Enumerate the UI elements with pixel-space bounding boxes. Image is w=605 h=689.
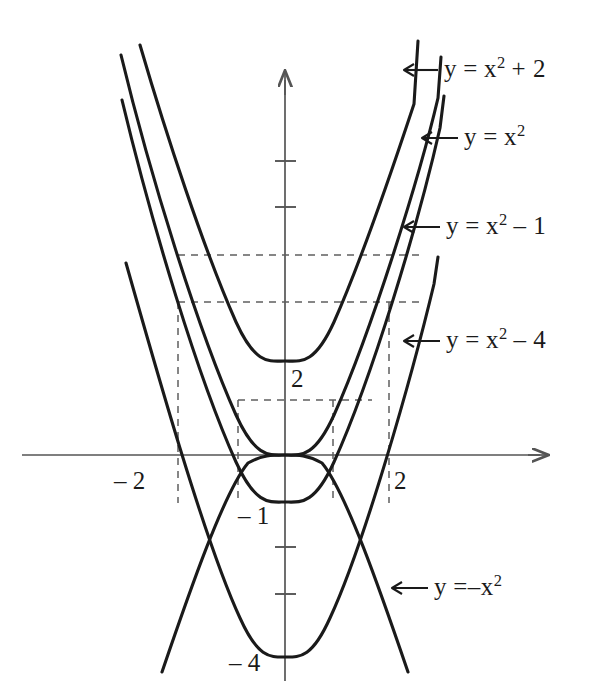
leader-arrow-x2-minus-1 bbox=[404, 221, 440, 233]
tick-label-x-pos-2: 2 bbox=[394, 468, 407, 493]
label-y-eq-x2-eq: = bbox=[483, 123, 498, 150]
label-y-eq-neg-x2-exp: 2 bbox=[494, 571, 502, 590]
label-y-eq-x2-base: x bbox=[504, 123, 517, 150]
label-y-eq-x2: y = x2 bbox=[464, 124, 525, 149]
label-y-eq-x2-plus-2-lead: y bbox=[444, 55, 457, 82]
label-y-eq-x2-minus-4: y = x2 – 4 bbox=[446, 327, 546, 352]
label-y-eq-x2-plus-2: y = x2 + 2 bbox=[444, 56, 546, 81]
label-y-eq-x2-plus-2-base: x bbox=[484, 55, 497, 82]
label-y-eq-x2-minus-4-base: x bbox=[486, 326, 499, 353]
tick-label-y-neg-4: – 4 bbox=[229, 650, 260, 675]
label-y-eq-x2-minus-4-tail: – 4 bbox=[514, 326, 547, 353]
curves-group bbox=[121, 41, 444, 672]
label-y-eq-x2-minus-1-eq: = bbox=[465, 212, 480, 239]
label-y-eq-x2-exp: 2 bbox=[517, 121, 525, 140]
label-y-eq-x2-plus-2-eq: = bbox=[463, 55, 478, 82]
label-y-eq-x2-minus-1-lead: y bbox=[446, 212, 459, 239]
label-y-eq-x2-lead: y bbox=[464, 123, 477, 150]
curve-y-eq-x2-minus-4 bbox=[126, 257, 438, 657]
label-y-eq-neg-x2-eq: =– bbox=[453, 573, 481, 600]
label-y-eq-x2-minus-1-exp: 2 bbox=[499, 210, 507, 229]
label-y-eq-x2-minus-4-lead: y bbox=[446, 326, 459, 353]
tick-label-y-neg-1: – 1 bbox=[238, 503, 269, 528]
tick-label-x-neg-2: – 2 bbox=[114, 468, 145, 493]
parabola-family-figure: y = x2 + 2 y = x2 y = x2 – 1 y = x2 – 4 … bbox=[0, 0, 605, 689]
leader-arrow-x2-plus-2 bbox=[404, 64, 438, 76]
label-y-eq-x2-plus-2-exp: 2 bbox=[497, 53, 505, 72]
label-y-eq-x2-minus-1: y = x2 – 1 bbox=[446, 213, 546, 238]
label-y-eq-neg-x2: y =–x2 bbox=[434, 574, 502, 599]
label-y-eq-x2-plus-2-tail: + 2 bbox=[512, 55, 546, 82]
label-y-eq-x2-minus-4-eq: = bbox=[465, 326, 480, 353]
label-y-eq-x2-minus-1-base: x bbox=[486, 212, 499, 239]
curve-y-eq-x2 bbox=[121, 55, 441, 455]
label-y-eq-neg-x2-lead: y bbox=[434, 573, 447, 600]
label-y-eq-x2-minus-4-exp: 2 bbox=[499, 324, 507, 343]
leader-arrow-neg-x2 bbox=[392, 582, 428, 594]
label-y-eq-neg-x2-base: x bbox=[481, 573, 494, 600]
tick-label-y-pos-2: 2 bbox=[291, 366, 304, 391]
label-y-eq-x2-minus-1-tail: – 1 bbox=[514, 212, 547, 239]
